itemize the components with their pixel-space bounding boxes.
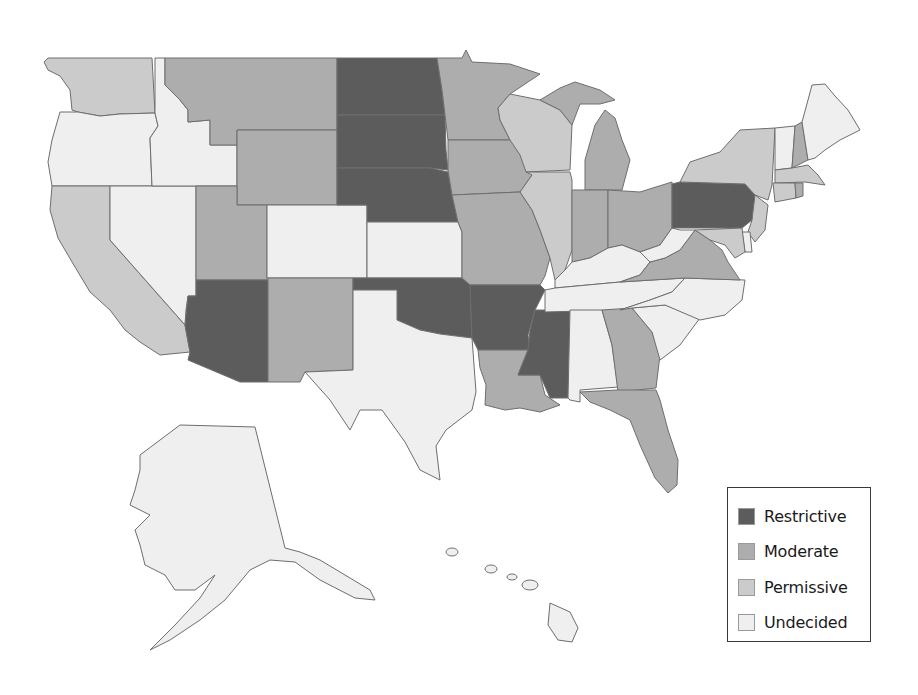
legend-swatch-undecided xyxy=(738,614,755,631)
legend-label-permissive: Permissive xyxy=(764,578,848,597)
legend-item-permissive: Permissive xyxy=(738,576,848,598)
legend-swatch-restrictive xyxy=(738,508,755,525)
state-michigan-lower[interactable] xyxy=(585,110,630,190)
legend-label-restrictive: Restrictive xyxy=(764,507,847,526)
state-hawaii[interactable] xyxy=(446,548,578,642)
legend-swatch-moderate xyxy=(738,543,755,560)
state-kansas[interactable] xyxy=(367,222,462,278)
state-washington[interactable] xyxy=(44,58,155,116)
state-new-mexico[interactable] xyxy=(268,278,353,382)
state-north-dakota[interactable] xyxy=(337,58,445,115)
state-wyoming[interactable] xyxy=(237,130,337,205)
state-oregon[interactable] xyxy=(48,112,158,186)
state-arizona[interactable] xyxy=(185,280,268,382)
legend-swatch-permissive xyxy=(738,579,755,596)
legend-item-moderate: Moderate xyxy=(738,540,839,562)
state-connecticut[interactable] xyxy=(773,183,796,202)
legend-label-undecided: Undecided xyxy=(764,613,847,632)
legend-item-undecided: Undecided xyxy=(738,611,847,633)
state-florida[interactable] xyxy=(580,390,678,493)
state-colorado[interactable] xyxy=(267,205,367,278)
state-south-dakota[interactable] xyxy=(337,115,448,170)
legend: Restrictive Moderate Permissive Undecide… xyxy=(727,487,871,642)
state-alaska[interactable] xyxy=(130,425,375,650)
legend-item-restrictive: Restrictive xyxy=(738,505,847,527)
state-rhode-island[interactable] xyxy=(795,183,803,198)
state-maine[interactable] xyxy=(802,84,860,160)
legend-label-moderate: Moderate xyxy=(764,542,839,561)
state-pennsylvania[interactable] xyxy=(672,182,755,228)
